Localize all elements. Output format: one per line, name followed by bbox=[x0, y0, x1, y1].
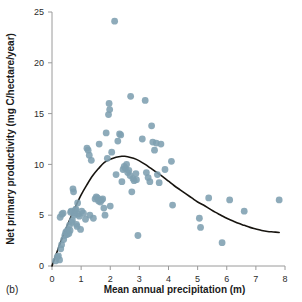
data-point bbox=[132, 170, 139, 177]
x-tick-label: 1 bbox=[79, 274, 84, 284]
x-tick-label: 3 bbox=[137, 274, 142, 284]
data-point bbox=[80, 210, 87, 217]
data-point bbox=[276, 197, 283, 204]
data-point bbox=[104, 155, 111, 162]
x-tick-label: 4 bbox=[166, 274, 171, 284]
data-point bbox=[60, 210, 67, 217]
data-point bbox=[151, 147, 158, 154]
x-tick-label: 8 bbox=[282, 274, 287, 284]
y-tick-label: 25 bbox=[34, 7, 44, 17]
data-point bbox=[139, 136, 146, 143]
y-axis-title: Net primary productivity (mg C/hectare/y… bbox=[5, 33, 16, 245]
data-point bbox=[219, 239, 226, 246]
y-tick-label: 20 bbox=[34, 58, 44, 68]
y-tick-label: 15 bbox=[34, 109, 44, 119]
data-point bbox=[106, 100, 113, 107]
x-tick-label: 7 bbox=[253, 274, 258, 284]
data-point bbox=[96, 141, 103, 148]
data-point bbox=[135, 232, 142, 239]
data-point bbox=[88, 157, 95, 164]
data-point bbox=[74, 200, 81, 207]
data-point bbox=[117, 132, 124, 139]
data-point bbox=[205, 195, 212, 202]
panel-label: (b) bbox=[6, 284, 18, 295]
data-point bbox=[128, 188, 135, 195]
data-point bbox=[169, 202, 176, 209]
y-tick-label: 0 bbox=[39, 261, 44, 271]
scatter-plot: 0510152025012345678Mean annual precipita… bbox=[0, 0, 302, 302]
x-axis-title: Mean annual precipitation (m) bbox=[104, 284, 246, 295]
data-point bbox=[196, 215, 203, 222]
data-point bbox=[70, 188, 77, 195]
data-point bbox=[158, 141, 165, 148]
x-tick-label: 5 bbox=[195, 274, 200, 284]
x-tick-label: 2 bbox=[108, 274, 113, 284]
axes bbox=[48, 12, 285, 270]
axis-labels: 0510152025012345678Mean annual precipita… bbox=[5, 7, 288, 295]
data-point bbox=[114, 138, 121, 145]
data-point bbox=[77, 226, 84, 233]
data-point bbox=[119, 178, 126, 185]
data-point bbox=[148, 122, 155, 129]
data-point bbox=[100, 205, 107, 212]
data-point bbox=[56, 257, 63, 264]
data-point bbox=[226, 197, 233, 204]
data-point bbox=[168, 158, 175, 165]
data-point bbox=[108, 149, 115, 156]
y-tick-label: 5 bbox=[39, 210, 44, 220]
figure-panel-b: 0510152025012345678Mean annual precipita… bbox=[0, 0, 302, 302]
data-point bbox=[123, 161, 130, 168]
data-point bbox=[197, 224, 204, 231]
data-point bbox=[106, 106, 113, 113]
data-point bbox=[127, 93, 134, 100]
x-tick-label: 0 bbox=[49, 274, 54, 284]
data-point bbox=[156, 179, 163, 186]
data-point bbox=[241, 208, 248, 215]
data-point bbox=[107, 203, 114, 210]
data-point bbox=[111, 18, 118, 25]
data-point bbox=[90, 215, 97, 222]
data-point bbox=[103, 130, 110, 137]
y-tick-label: 10 bbox=[34, 160, 44, 170]
data-point bbox=[67, 227, 74, 234]
data-point bbox=[142, 97, 149, 104]
data-point bbox=[146, 178, 153, 185]
data-point bbox=[162, 166, 169, 173]
data-point bbox=[102, 212, 109, 219]
data-point bbox=[99, 196, 106, 203]
data-point bbox=[113, 171, 120, 178]
data-point bbox=[133, 176, 140, 183]
x-tick-label: 6 bbox=[224, 274, 229, 284]
data-point bbox=[154, 171, 161, 178]
